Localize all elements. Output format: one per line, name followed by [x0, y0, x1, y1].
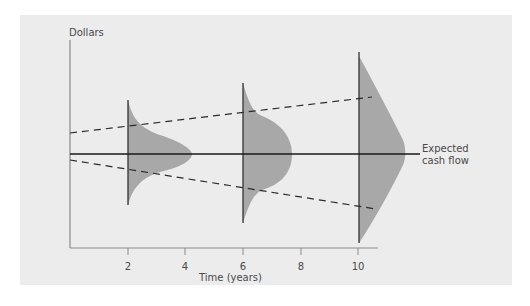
x-axis-label: Time (years) — [198, 272, 262, 283]
distribution-year-6 — [243, 83, 292, 223]
tick-label-10: 10 — [352, 261, 365, 272]
y-axis-label: Dollars — [69, 27, 104, 38]
uncertainty-chart: Dollars Time (years) Expected cash flow … — [0, 0, 530, 306]
distribution-year-10 — [359, 56, 405, 243]
expected-cash-flow-label-line2: cash flow — [422, 155, 469, 166]
expected-cash-flow-label-line1: Expected — [422, 143, 469, 154]
lower-bound-dashed-line — [70, 160, 376, 209]
tick-label-2: 2 — [125, 261, 131, 272]
tick-label-6: 6 — [240, 261, 246, 272]
tick-label-8: 8 — [298, 261, 304, 272]
distribution-year-2 — [128, 100, 192, 205]
tick-label-4: 4 — [182, 261, 188, 272]
x-ticks — [128, 248, 358, 255]
upper-bound-dashed-line — [70, 97, 372, 133]
